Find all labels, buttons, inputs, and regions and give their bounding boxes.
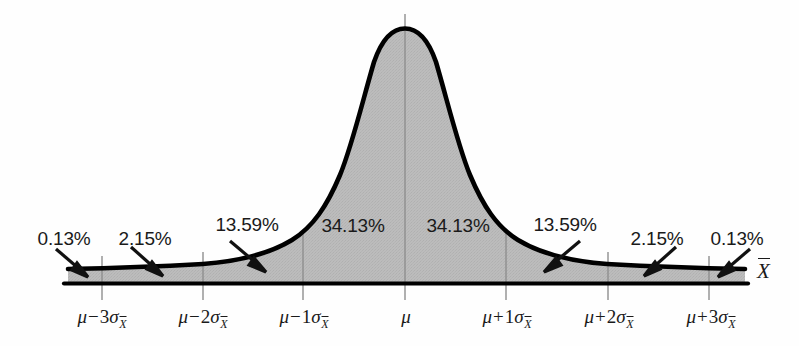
axis-label-mu: μ (401, 306, 411, 328)
distribution-curve-svg (0, 0, 799, 346)
minus-glyph: − (87, 306, 100, 327)
percent-label-left-3sigma: 0.13% (38, 228, 91, 250)
mu-glyph: μ (280, 306, 290, 327)
percent-label-center-left: 34.13% (321, 215, 384, 237)
plus-glyph: + (492, 306, 505, 327)
coefficient-3: 3 (709, 306, 719, 327)
plus-glyph: + (594, 306, 607, 327)
sigma-glyph: σ (514, 306, 523, 327)
axis-label-minus-1-sigma: μ−1σX (280, 306, 329, 332)
mu-glyph: μ (401, 306, 411, 327)
percent-label-left-2sigma: 2.15% (119, 228, 172, 250)
sigma-glyph: σ (616, 306, 625, 327)
axis-label-plus-2-sigma: μ+2σX (585, 306, 634, 332)
sigma-glyph: σ (210, 306, 219, 327)
mu-glyph: μ (585, 306, 595, 327)
coefficient-2: 2 (607, 306, 617, 327)
axis-label-plus-1-sigma: μ+1σX (483, 306, 532, 332)
axis-label-minus-2-sigma: μ−2σX (179, 306, 228, 332)
mu-glyph: μ (687, 306, 697, 327)
percent-label-left-1sigma: 13.59% (215, 214, 278, 236)
percent-label-right-1sigma: 13.59% (533, 214, 596, 236)
plus-glyph: + (696, 306, 709, 327)
axis-label-plus-3-sigma: μ+3σX (687, 306, 736, 332)
sigma-subscript-xbar: X (728, 317, 736, 331)
mu-glyph: μ (78, 306, 88, 327)
axis-label-minus-3-sigma: μ−3σX (78, 306, 127, 332)
minus-glyph: − (289, 306, 302, 327)
sigma-glyph: σ (109, 306, 118, 327)
percent-label-right-2sigma: 2.15% (631, 228, 684, 250)
percent-label-center-right: 34.13% (426, 215, 489, 237)
axis-end-label-xbar: X (757, 259, 770, 284)
minus-glyph: − (188, 306, 201, 327)
axis-tick-lines (102, 14, 709, 300)
mu-glyph: μ (179, 306, 189, 327)
percent-label-right-3sigma: 0.13% (711, 228, 764, 250)
sigma-glyph: σ (311, 306, 320, 327)
sigma-subscript-xbar: X (524, 317, 532, 331)
coefficient-1: 1 (505, 306, 515, 327)
sigma-subscript-xbar: X (626, 317, 634, 331)
mu-glyph: μ (483, 306, 493, 327)
coefficient-2: 2 (201, 306, 211, 327)
sigma-subscript-xbar: X (119, 317, 127, 331)
coefficient-3: 3 (100, 306, 110, 327)
normal-distribution-figure: 0.13% 2.15% 13.59% 34.13% 34.13% 13.59% … (0, 0, 799, 346)
sigma-glyph: σ (718, 306, 727, 327)
coefficient-1: 1 (302, 306, 312, 327)
sigma-subscript-xbar: X (220, 317, 228, 331)
sigma-subscript-xbar: X (321, 317, 329, 331)
xbar-glyph: X (757, 259, 770, 284)
